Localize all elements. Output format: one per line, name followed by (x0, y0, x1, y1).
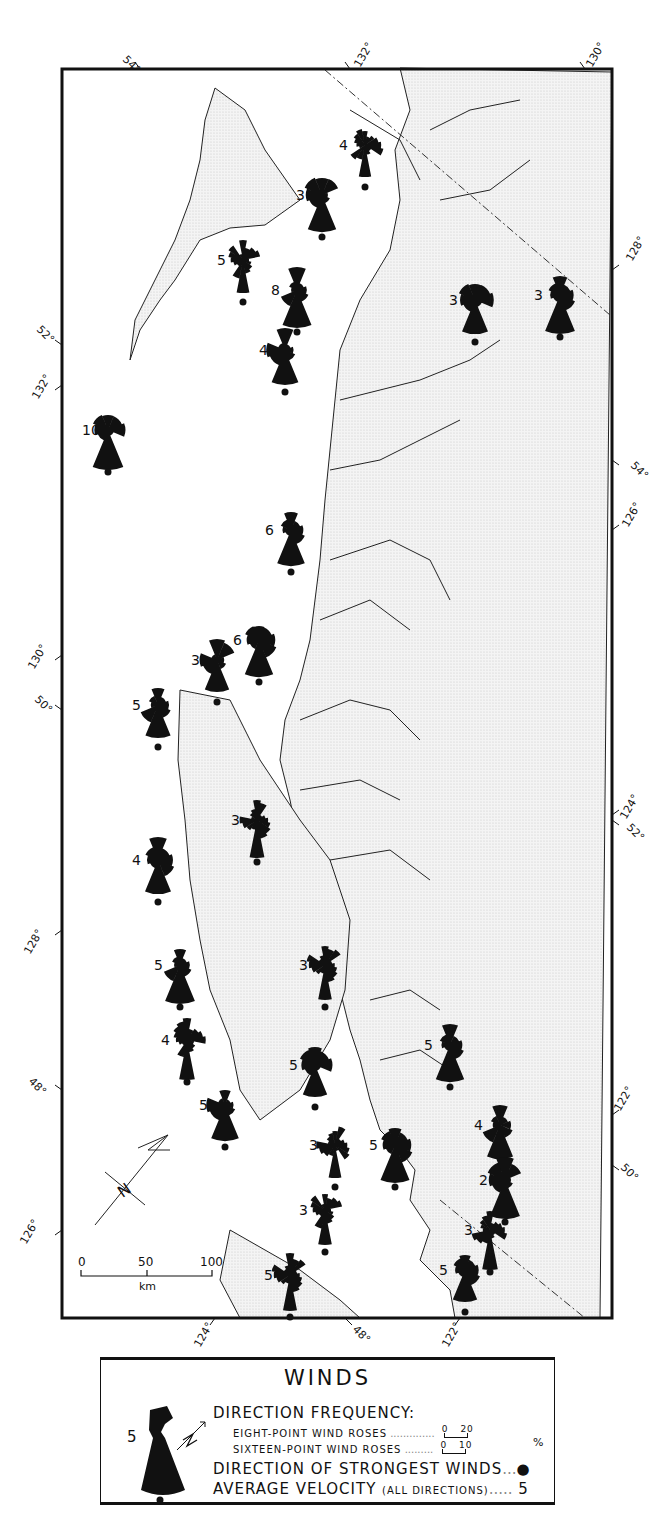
wind-map: 54° 132° 130° 52° 132° 130° 50° 128° 48°… (0, 0, 671, 1350)
strongest-wind-dot-icon (184, 1079, 191, 1086)
velocity-label: 4 (474, 1117, 483, 1133)
strongest-label: DIRECTION OF STRONGEST WINDS (213, 1460, 502, 1478)
strongest-wind-dot-icon (319, 234, 326, 241)
velocity-label: 8 (271, 282, 280, 298)
label-right-128: 128° (623, 234, 648, 263)
strongest-wind-dot-icon (462, 1309, 469, 1316)
label-right-52: 52° (624, 821, 647, 844)
velocity-label: 5 (154, 957, 163, 973)
label-left-130: 130° (25, 642, 50, 671)
label-right-54: 54° (628, 459, 651, 482)
wind-rose-station: 5 (369, 1128, 412, 1190)
mainland (130, 68, 612, 1318)
velocity-label: 5 (199, 1097, 208, 1113)
label-right-126: 126° (619, 500, 644, 529)
wind-rose-station: 5 (132, 688, 171, 750)
velocity-qualifier: (ALL DIRECTIONS) (382, 1485, 489, 1496)
strongest-wind-dot-icon (472, 339, 479, 346)
velocity-label: 4 (132, 852, 141, 868)
north-arrow: N (95, 1135, 170, 1225)
strongest-wind-dot-icon (557, 334, 564, 341)
label-top-54: 54° (120, 53, 143, 76)
velocity-label: 3 (299, 957, 308, 973)
wind-rose-station: 5 (217, 240, 260, 305)
strongest-wind-dot-icon (362, 184, 369, 191)
velocity-label: 2 (479, 1172, 488, 1188)
label-left-48: 48° (26, 1075, 49, 1098)
wind-rose-station: 4 (259, 328, 298, 395)
strongest-dot-icon (157, 1497, 164, 1504)
label-right-50: 50° (618, 1161, 641, 1184)
velocity-label: 5 (369, 1137, 378, 1153)
strongest-wind-dot-icon (288, 569, 295, 576)
strongest-wind-dot-icon (312, 1104, 319, 1111)
scale-bar: 0 50 100 km (78, 1255, 223, 1293)
velocity-label: 6 (233, 632, 242, 648)
sixteen-point-label: SIXTEEN-POINT WIND ROSES (233, 1444, 401, 1455)
wind-rose-station: 6 (265, 512, 305, 575)
wind-rose-station: 6 (233, 626, 276, 685)
strongest-wind-dot-icon (392, 1184, 399, 1191)
label-right-122: 122° (611, 1084, 636, 1113)
strongest-wind-dot-icon (155, 899, 162, 906)
velocity-label: 3 (191, 652, 200, 668)
strongest-wind-dot-icon (254, 859, 261, 866)
label-top-130: 130° (583, 40, 608, 69)
label-bottom-48: 48° (350, 1323, 373, 1346)
strongest-wind-dot-icon (240, 299, 247, 306)
velocity-label: 3 (296, 187, 305, 203)
velocity-label: AVERAGE VELOCITY (213, 1480, 376, 1498)
svg-text:km: km (139, 1280, 156, 1293)
velocity-label: 3 (231, 812, 240, 828)
direction-frequency-label: DIRECTION FREQUENCY: (213, 1404, 415, 1422)
legend-example-rose: 5 (115, 1400, 215, 1505)
sixteen-point-row: SIXTEEN-POINT WIND ROSES ......... 010 (233, 1444, 468, 1456)
wind-rose-station: 5 (199, 1090, 239, 1151)
label-left-132: 132° (29, 372, 54, 401)
velocity-label: 4 (259, 342, 268, 358)
velocity-label: 3 (534, 287, 543, 303)
eight-point-row: EIGHT-POINT WIND ROSES .............. 02… (233, 1428, 470, 1440)
velocity-row: AVERAGE VELOCITY (ALL DIRECTIONS)..... 5 (213, 1480, 529, 1498)
wind-rose-station: 3 (309, 1127, 350, 1191)
svg-text:5: 5 (127, 1428, 137, 1446)
strongest-wind-dot-icon (487, 1269, 494, 1276)
velocity-label: 5 (439, 1262, 448, 1278)
wind-rose-station: 5 (154, 949, 195, 1011)
eight-point-scale: 020 (442, 1428, 470, 1440)
percent-unit: % (533, 1436, 543, 1449)
strongest-wind-dot-icon (447, 1084, 454, 1091)
velocity-label: 5 (424, 1037, 433, 1053)
label-left-128: 128° (21, 927, 46, 956)
label-top-132: 132° (351, 40, 376, 69)
velocity-symbol: 5 (518, 1480, 529, 1498)
svg-text:50: 50 (138, 1255, 153, 1269)
wind-rose-station: 3 (296, 178, 338, 241)
velocity-label: 10 (82, 422, 100, 438)
legend: WINDS 5 DIRECTION FREQUENCY: EIGHT-POINT… (100, 1357, 555, 1505)
label-left-52: 52° (34, 323, 57, 346)
velocity-label: 5 (289, 1057, 298, 1073)
svg-text:100: 100 (200, 1255, 223, 1269)
strongest-dot-icon: ● (516, 1460, 530, 1478)
svg-text:0: 0 (78, 1255, 86, 1269)
velocity-label: 3 (299, 1202, 308, 1218)
wind-rose-station: 4 (339, 129, 383, 190)
label-left-126: 126° (17, 1217, 42, 1246)
strongest-winds-row: DIRECTION OF STRONGEST WINDS...● (213, 1460, 531, 1478)
eight-point-label: EIGHT-POINT WIND ROSES (233, 1428, 387, 1439)
label-right-124: 124° (617, 792, 642, 821)
velocity-label: 5 (217, 252, 226, 268)
strongest-wind-dot-icon (322, 1004, 329, 1011)
wind-rose-station: 4 (132, 837, 174, 905)
strongest-wind-dot-icon (214, 699, 221, 706)
strongest-wind-dot-icon (256, 679, 263, 686)
north-arrow-icon (177, 1422, 205, 1450)
label-left-50: 50° (32, 693, 55, 716)
strongest-wind-dot-icon (155, 744, 162, 751)
legend-title: WINDS (101, 1366, 554, 1390)
strongest-wind-dot-icon (332, 1184, 339, 1191)
strongest-wind-dot-icon (222, 1144, 229, 1151)
velocity-label: 5 (264, 1267, 273, 1283)
strongest-wind-dot-icon (282, 389, 289, 396)
